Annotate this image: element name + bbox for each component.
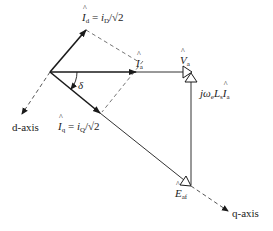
iq-phasor [50,72,100,113]
id-label: Id = iD/√2 [82,12,124,25]
jwlsia-label: jωeLsIa [200,88,230,101]
id-phasor [50,30,86,72]
jw-symbol: jω [200,87,211,99]
iq-rhs-tail: /√2 [85,120,100,132]
va-subscript: a [187,60,190,68]
ia-drop-subscript: a [226,93,229,101]
va-symbol: V [180,55,187,66]
q-axis-label: q-axis [232,208,259,219]
id-equals: = [89,11,101,23]
phasor-diagram [0,0,273,231]
iq-equals: = [65,120,77,132]
id-symbol: I [82,12,86,23]
q-axis-line [191,186,228,211]
delta-angle-arc [71,72,77,89]
eaf-label: Eaf [175,188,187,201]
id-projection-dashed [86,30,139,62]
delta-label: δ [78,80,83,91]
ia-label: Ia [136,58,143,71]
iq-symbol: I [58,121,62,132]
eaf-symbol: E [175,188,182,199]
eaf-phasor [100,113,184,180]
eaf-subscript: af [182,193,187,201]
d-axis-label: d-axis [12,122,39,133]
va-label: Va [180,55,190,68]
ia-drop-symbol: I [223,88,227,99]
ia-symbol: I [136,58,140,69]
d-axis-line [22,72,50,114]
iq-label: Iq = iQ/√2 [58,121,100,134]
ia-subscript: a [140,63,143,71]
id-rhs-tail: /√2 [109,11,124,23]
